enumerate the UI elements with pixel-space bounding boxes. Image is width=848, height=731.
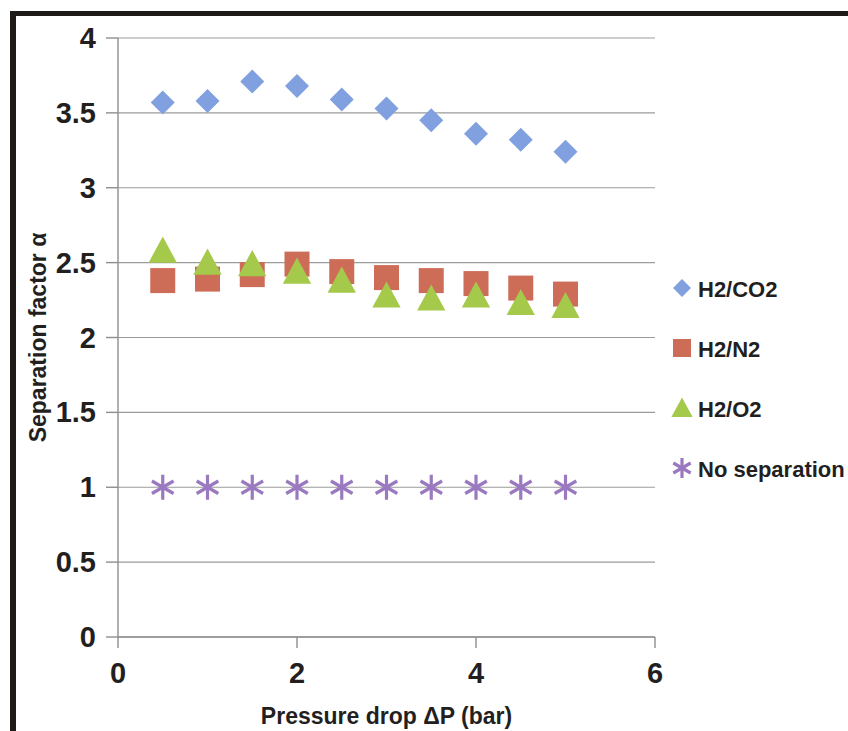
data-point-diamond [419, 108, 443, 132]
legend-item-label: No separation [698, 457, 845, 482]
x-axis-title: Pressure drop ΔP (bar) [261, 703, 512, 729]
y-tick-label: 0.5 [56, 546, 96, 578]
data-point-diamond [196, 89, 220, 113]
data-point-triangle [193, 248, 221, 274]
series-h2-n2 [150, 252, 578, 307]
y-tick-label: 0 [80, 621, 96, 653]
triangle-marker-icon [671, 397, 692, 417]
legend-item[interactable]: H2/N2 [673, 337, 760, 362]
data-point-triangle [149, 236, 177, 262]
data-point-diamond [240, 69, 264, 93]
data-point-diamond [375, 96, 399, 120]
legend-item[interactable]: H2/O2 [671, 397, 761, 422]
data-point-diamond [330, 87, 354, 111]
y-axis-title: Separation factor α [25, 233, 51, 443]
chart-page: 00.511.522.533.54 0246 H2/CO2H2/N2H2/O2N… [0, 0, 848, 731]
data-point-diamond [151, 90, 175, 114]
square-marker-icon [673, 339, 691, 357]
x-axis-tick-labels: 0246 [110, 637, 663, 689]
y-tick-label: 3.5 [56, 97, 96, 129]
legend-item-label: H2/O2 [698, 397, 762, 422]
data-point-diamond [285, 74, 309, 98]
legend-item[interactable]: No separation [673, 457, 844, 482]
data-points [149, 69, 580, 499]
asterisk-marker-icon [673, 458, 690, 478]
plot-area: 00.511.522.533.54 0246 H2/CO2H2/N2H2/O2N… [0, 0, 848, 731]
y-tick-label: 3 [80, 172, 96, 204]
x-tick-label: 6 [647, 657, 663, 689]
gridlines [118, 38, 655, 637]
separation-factor-scatter-chart: 00.511.522.533.54 0246 H2/CO2H2/N2H2/O2N… [0, 0, 848, 731]
data-point-diamond [554, 140, 578, 164]
data-point-diamond [509, 128, 533, 152]
series-h2-co2 [151, 69, 578, 163]
y-tick-label: 1 [80, 471, 96, 503]
data-point-diamond [464, 122, 488, 146]
legend-item[interactable]: H2/CO2 [673, 277, 777, 302]
legend-item-label: H2/CO2 [698, 277, 777, 302]
y-tick-label: 4 [80, 22, 96, 54]
x-tick-label: 0 [110, 657, 126, 689]
data-point-square [150, 268, 175, 293]
diamond-marker-icon [673, 279, 691, 297]
chart-legend: H2/CO2H2/N2H2/O2No separation [671, 277, 844, 482]
y-tick-label: 2 [80, 322, 96, 354]
x-tick-label: 2 [289, 657, 305, 689]
y-tick-label: 1.5 [56, 396, 96, 428]
y-axis-tick-labels: 00.511.522.533.54 [56, 22, 118, 653]
x-tick-label: 4 [468, 657, 484, 689]
legend-item-label: H2/N2 [698, 337, 760, 362]
y-tick-label: 2.5 [56, 247, 96, 279]
